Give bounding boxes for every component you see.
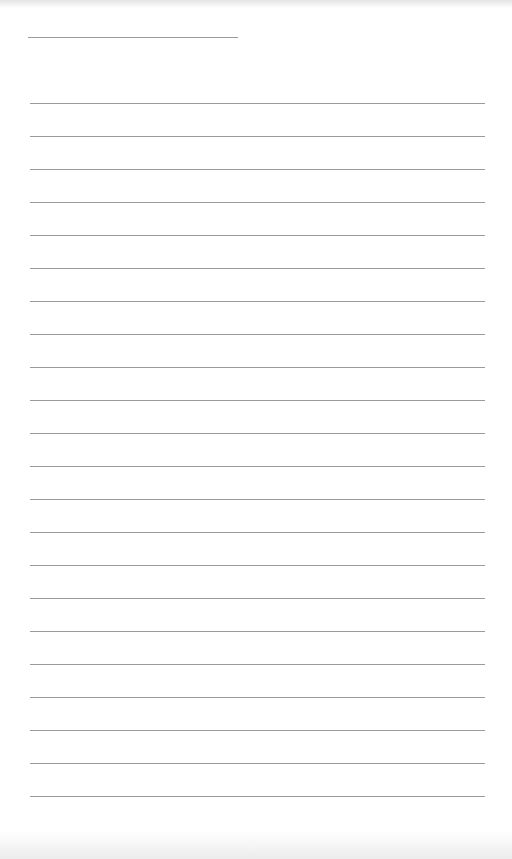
ruled-line xyxy=(30,532,485,533)
ruled-line xyxy=(30,136,485,137)
ruled-line xyxy=(30,565,485,566)
header-line xyxy=(28,37,238,38)
ruled-line xyxy=(30,664,485,665)
ruled-line xyxy=(30,466,485,467)
ruled-line xyxy=(30,433,485,434)
ruled-line xyxy=(30,169,485,170)
ruled-line xyxy=(30,796,485,797)
ruled-line xyxy=(30,202,485,203)
ruled-line xyxy=(30,268,485,269)
ruled-line xyxy=(30,301,485,302)
ruled-line xyxy=(30,631,485,632)
ruled-line xyxy=(30,499,485,500)
ruled-line xyxy=(30,598,485,599)
ruled-line xyxy=(30,730,485,731)
page-bottom-shadow xyxy=(0,831,512,859)
ruled-line xyxy=(30,400,485,401)
ruled-line xyxy=(30,763,485,764)
ruled-line xyxy=(30,103,485,104)
ruled-line xyxy=(30,697,485,698)
ruled-line xyxy=(30,235,485,236)
ruled-line xyxy=(30,334,485,335)
page-top-shadow xyxy=(0,0,512,8)
ruled-line xyxy=(30,367,485,368)
